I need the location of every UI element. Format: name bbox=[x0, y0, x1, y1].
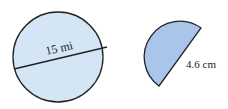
semicircle-figure: 4.6 cm bbox=[144, 21, 216, 86]
circle-shape bbox=[13, 12, 103, 102]
circle-figure: 15 mi bbox=[13, 12, 107, 102]
semicircle-diameter-label: 4.6 cm bbox=[186, 58, 216, 70]
diagram-canvas: 15 mi 4.6 cm bbox=[0, 0, 228, 109]
semicircle-shape bbox=[144, 21, 201, 86]
